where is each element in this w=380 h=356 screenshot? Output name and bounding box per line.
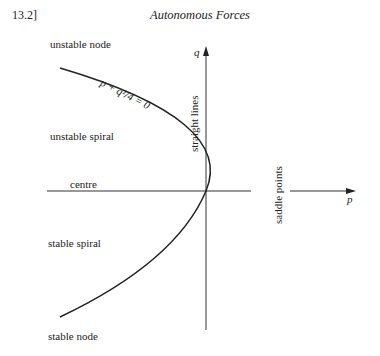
q-axis-arrow-icon <box>203 46 209 56</box>
stability-diagram <box>0 0 380 356</box>
label-unstable-node: unstable node <box>50 38 111 50</box>
p-axis-label: p <box>347 193 353 205</box>
label-straight-lines: straight lines <box>188 95 200 152</box>
label-unstable-spiral: unstable spiral <box>50 130 114 142</box>
label-stable-node: stable node <box>48 330 98 342</box>
q-axis-label: q <box>194 46 200 58</box>
label-saddle-points: saddle points <box>272 166 284 224</box>
label-centre: centre <box>70 178 97 190</box>
label-stable-spiral: stable spiral <box>48 237 101 249</box>
